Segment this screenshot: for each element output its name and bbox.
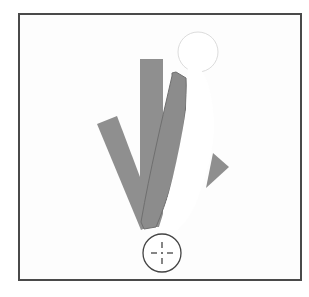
rotation-illustration [0, 0, 309, 297]
silhouette-head [178, 32, 218, 72]
crosshair-icon[interactable] [143, 234, 181, 272]
